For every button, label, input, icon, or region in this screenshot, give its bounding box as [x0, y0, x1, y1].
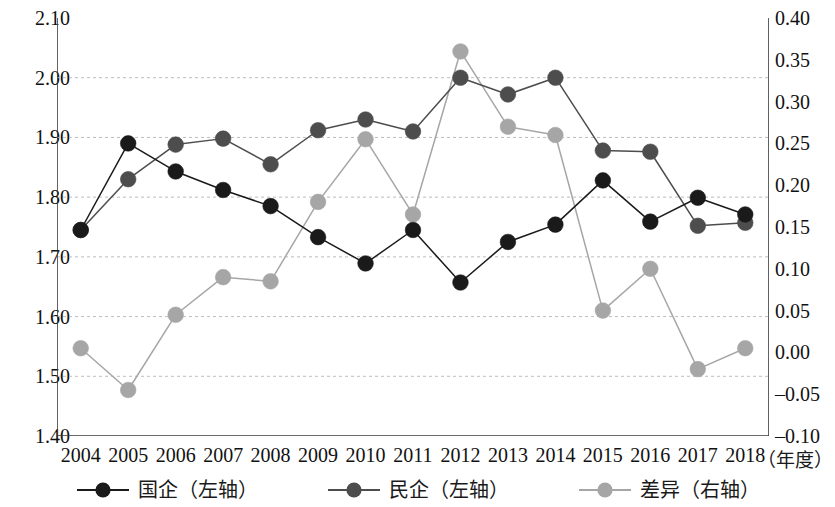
data-point — [548, 217, 564, 233]
plot-svg — [57, 18, 769, 436]
chart-legend: 国企（左轴）民企（左轴）差异（右轴） — [0, 472, 835, 507]
data-point — [73, 222, 89, 238]
data-point — [73, 340, 89, 356]
data-point — [500, 87, 516, 103]
data-point — [737, 340, 753, 356]
data-point — [263, 157, 279, 173]
data-point — [500, 234, 516, 250]
data-point — [358, 131, 374, 147]
data-point — [500, 119, 516, 135]
legend-item-label: 差异（右轴） — [640, 479, 760, 501]
data-point — [453, 275, 469, 291]
data-point — [310, 194, 326, 210]
data-point — [453, 70, 469, 86]
data-point — [168, 137, 184, 153]
data-point — [643, 144, 659, 160]
y-axis-right-tick-label: 0.05 — [775, 301, 810, 321]
data-point — [120, 382, 136, 398]
data-point — [737, 207, 753, 223]
data-point — [595, 143, 611, 159]
legend-item-1[interactable]: 国企（左轴） — [75, 479, 258, 501]
legend-marker-icon — [326, 480, 382, 500]
data-point — [263, 274, 279, 290]
data-point — [690, 190, 706, 206]
y-axis-right-tick-label: 0.35 — [775, 50, 810, 70]
data-point — [643, 214, 659, 230]
legend-marker-icon — [75, 480, 131, 500]
data-point — [120, 171, 136, 187]
data-point — [310, 122, 326, 138]
data-point — [358, 112, 374, 128]
data-point — [643, 261, 659, 277]
data-point — [405, 124, 421, 140]
data-point — [168, 307, 184, 323]
y-axis-right-tick-label: –0.05 — [775, 384, 820, 404]
legend-item-3[interactable]: 差异（右轴） — [577, 479, 760, 501]
y-axis-right-tick-label: 0.30 — [775, 92, 810, 112]
line-chart: 1.401.501.601.701.801.902.002.10 –0.10–0… — [0, 0, 835, 507]
y-axis-right-tick-label: 0.15 — [775, 217, 810, 237]
data-point — [548, 70, 564, 86]
legend-item-label: 民企（左轴） — [389, 479, 509, 501]
y-axis-right-tick-label: 0.10 — [775, 259, 810, 279]
data-point — [215, 269, 231, 285]
y-axis-right-tick-label: 0.20 — [775, 175, 810, 195]
y-axis-right-tick-label: 0.25 — [775, 133, 810, 153]
data-point — [453, 44, 469, 60]
plot-area — [57, 18, 769, 436]
data-point — [405, 207, 421, 223]
series-layer — [73, 44, 753, 398]
data-point — [595, 303, 611, 319]
data-point — [215, 182, 231, 198]
data-point — [168, 164, 184, 180]
data-point — [215, 131, 231, 147]
legend-item-2[interactable]: 民企（左轴） — [326, 479, 509, 501]
legend-marker-icon — [577, 480, 633, 500]
legend-item-label: 国企（左轴） — [138, 479, 258, 501]
data-point — [310, 229, 326, 245]
data-point — [120, 136, 136, 152]
y-axis-right-tick-label: –0.10 — [775, 426, 820, 446]
y-axis-right-tick-label: 0.00 — [775, 342, 810, 362]
data-point — [690, 361, 706, 377]
x-axis-title: （年度） — [757, 445, 833, 472]
data-point — [690, 218, 706, 234]
data-point — [263, 198, 279, 214]
data-point — [595, 173, 611, 189]
data-point — [548, 127, 564, 143]
data-point — [405, 222, 421, 238]
y-axis-right-tick-label: 0.40 — [775, 8, 810, 28]
data-point — [358, 256, 374, 272]
